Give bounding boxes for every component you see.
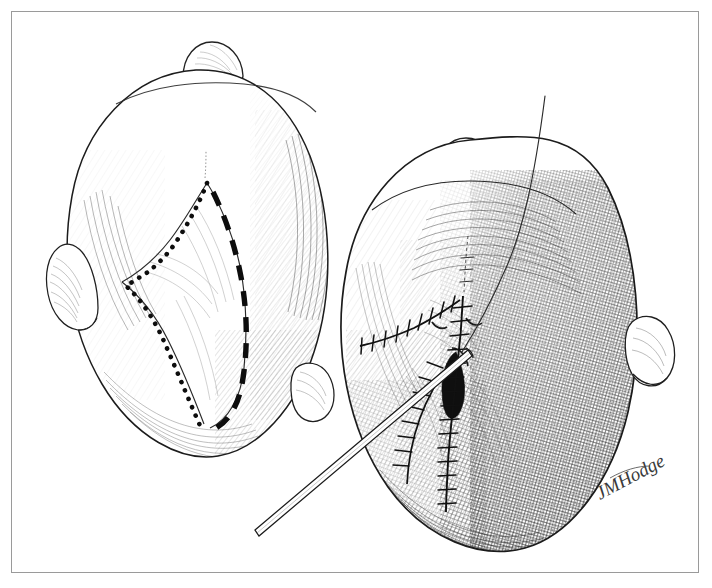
medical-illustration: JMHodge [0,0,712,588]
illustration-canvas: JMHodge surgical illustration of a perin… [0,0,712,588]
